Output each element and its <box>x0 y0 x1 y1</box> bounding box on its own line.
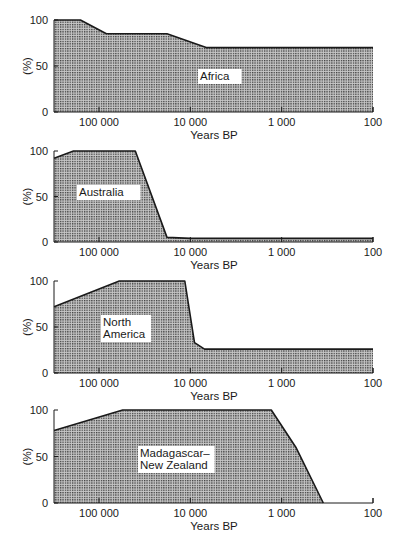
chart-panel-africa: 050100100 00010 0001 000100Years BP(%)Af… <box>21 14 382 141</box>
y-tick-label: 0 <box>42 497 48 509</box>
x-tick-label: 10 000 <box>174 507 208 519</box>
x-tick-label: 100 <box>364 507 382 519</box>
chart-panel-madagascar-new-zealand: 050100100 00010 0001 000100Years BP(%)Ma… <box>21 404 382 532</box>
region-label: North <box>103 316 131 328</box>
extinction-chart-figure: 050100100 00010 0001 000100Years BP(%)Af… <box>0 0 404 541</box>
y-tick-label: 100 <box>30 275 48 287</box>
x-tick-label: 1 000 <box>268 377 296 389</box>
y-axis-title: (%) <box>21 187 33 205</box>
y-tick-label: 0 <box>42 236 48 248</box>
x-tick-label: 100 000 <box>79 246 119 258</box>
x-axis-title: Years BP <box>190 129 238 141</box>
y-tick-label: 50 <box>36 321 48 333</box>
x-axis-title: Years BP <box>190 390 238 402</box>
y-tick-label: 50 <box>36 60 48 72</box>
x-tick-label: 100 000 <box>79 377 119 389</box>
y-tick-label: 100 <box>30 145 48 157</box>
region-label: America <box>103 328 146 340</box>
x-tick-label: 100 <box>364 377 382 389</box>
chart-panel-north-america: 050100100 00010 0001 000100Years BP(%)No… <box>21 275 382 402</box>
x-tick-label: 100 <box>364 246 382 258</box>
y-tick-label: 0 <box>42 106 48 118</box>
area-fill <box>54 20 373 112</box>
x-tick-label: 1 000 <box>268 507 296 519</box>
region-label: Australia <box>79 186 124 198</box>
y-tick-label: 100 <box>30 404 48 416</box>
y-tick-label: 50 <box>36 451 48 463</box>
x-tick-label: 10 000 <box>174 246 208 258</box>
x-tick-label: 10 000 <box>174 116 208 128</box>
x-axis-title: Years BP <box>190 520 238 532</box>
x-tick-label: 1 000 <box>268 116 296 128</box>
region-label: Africa <box>200 70 230 82</box>
x-tick-label: 10 000 <box>174 377 208 389</box>
x-tick-label: 1 000 <box>268 246 296 258</box>
y-axis-title: (%) <box>21 447 33 465</box>
region-label: New Zealand <box>140 459 208 471</box>
y-tick-label: 100 <box>30 14 48 26</box>
y-tick-label: 50 <box>36 191 48 203</box>
x-tick-label: 100 000 <box>79 507 119 519</box>
x-tick-label: 100 000 <box>79 116 119 128</box>
region-label: Madagascar– <box>140 447 210 459</box>
x-axis-title: Years BP <box>190 259 238 271</box>
chart-panel-australia: 050100100 00010 0001 000100Years BP(%)Au… <box>21 145 382 271</box>
y-axis-title: (%) <box>21 57 33 75</box>
y-tick-label: 0 <box>42 367 48 379</box>
x-tick-label: 100 <box>364 116 382 128</box>
y-axis-title: (%) <box>21 318 33 336</box>
